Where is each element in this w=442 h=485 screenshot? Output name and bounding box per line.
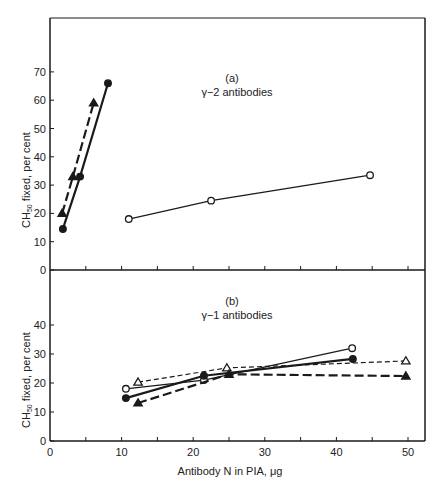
y-tick-label: 50 <box>34 123 46 135</box>
y-tick-label: 0 <box>40 264 46 276</box>
y-tick-label: 0 <box>40 435 46 447</box>
panel-a-series <box>58 80 373 232</box>
series-line <box>126 359 353 398</box>
open-circle-marker <box>349 345 356 352</box>
panel-a-ylabel: CH50 fixed, per cent <box>20 132 33 228</box>
filled-circle-marker <box>77 173 84 180</box>
x-tick-label: 10 <box>115 446 127 458</box>
y-tick-label: 30 <box>34 179 46 191</box>
y-tick-label: 20 <box>34 207 46 219</box>
filled-triangle-marker <box>89 99 97 106</box>
y-tick-label: 70 <box>34 66 46 78</box>
filled-circle-marker <box>123 395 130 402</box>
panel-a-letter: (a) <box>225 72 238 84</box>
filled-circle-marker <box>105 80 112 87</box>
series-line <box>138 374 406 403</box>
x-tick-label: 50 <box>402 446 414 458</box>
panel-a-title: γ−2 antibodies <box>201 86 273 98</box>
filled-triangle-marker <box>58 209 66 216</box>
panel-b-title: γ−1 antibodies <box>201 309 273 321</box>
x-tick-label: 40 <box>330 446 342 458</box>
y-tick-label: 40 <box>34 319 46 331</box>
y-tick-label: 10 <box>34 236 46 248</box>
x-tick-label: 20 <box>187 446 199 458</box>
x-tick-label: 0 <box>47 446 53 458</box>
filled-circle-marker <box>60 226 67 233</box>
y-tick-label: 60 <box>34 94 46 106</box>
filled-circle-marker <box>201 372 208 379</box>
panel-b-ylabel: CH50 fixed, per cent <box>20 332 33 428</box>
panel-b-series <box>123 345 410 406</box>
series-line <box>138 361 406 382</box>
x-tick-label: 30 <box>259 446 271 458</box>
y-tick-label: 20 <box>34 377 46 389</box>
panel-b-letter: (b) <box>225 295 238 307</box>
y-tick-label: 30 <box>34 348 46 360</box>
panel-b-ticks: 01020304001020304050 <box>34 319 414 458</box>
open-circle-marker <box>123 386 130 393</box>
series-line <box>126 348 352 389</box>
filled-triangle-marker <box>69 172 77 179</box>
y-tick-label: 40 <box>34 151 46 163</box>
chart: 010203040506070 01020304001020304050 (a)… <box>0 0 442 485</box>
filled-triangle-marker <box>402 372 410 379</box>
filled-circle-marker <box>350 356 357 363</box>
x-axis-label: Antibody N in PIA, μg <box>178 465 283 477</box>
open-circle-marker <box>208 197 215 204</box>
series-line <box>129 175 370 219</box>
open-circle-marker <box>367 172 374 179</box>
open-circle-marker <box>125 216 132 223</box>
y-tick-label: 10 <box>34 406 46 418</box>
series-line <box>63 83 108 229</box>
open-triangle-marker <box>402 357 410 364</box>
series-line <box>62 103 94 213</box>
